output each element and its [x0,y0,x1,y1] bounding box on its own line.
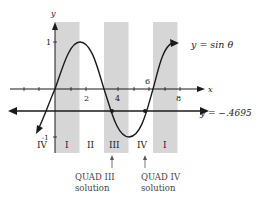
quad3-annotation-line1: QUAD III [75,172,115,182]
quad4-annotation-line2: solution [141,183,176,193]
quad4-annotation-line1: QUAD IV [141,172,181,182]
sine-arrow-left-icon [36,125,43,134]
x-tick-label-4: 4 [115,94,120,103]
y-tick-label-1: 1 [46,38,51,47]
line-label: y = −.4695 [199,108,252,118]
sine-label: y = sin θ [190,39,233,50]
x-axis-arrow-icon [197,86,205,92]
quadrant-label-iii: III [109,140,120,150]
band-quadrant-3 [104,22,129,153]
x-tick-label-2: 2 [84,94,89,103]
quadrant-label-i-right: I [163,140,167,150]
quad3-annotation-line2: solution [75,183,110,193]
quadrant-label-iv-left: IV [37,140,48,150]
solution-point-quad4 [143,109,147,113]
quad3-pointer-arrow-icon [110,155,114,160]
quadrant-label-ii: II [87,140,95,150]
quadrant-label-iv: IV [137,140,148,150]
quadrant-label-i: I [65,140,69,150]
solution-point-quad3 [110,109,114,113]
quad4-pointer-arrow-icon [143,155,147,160]
diagram: y x 1 -1 2 4 6 8 y = sin θ y = −.4695 IV… [0,0,262,202]
band-quadrant-1 [55,22,80,153]
y-axis-label: y [50,9,56,18]
x-tick-label-8: 8 [176,94,181,103]
x-axis-label: x [208,85,213,94]
x-tick-label-6: 6 [145,77,150,86]
line-left-arrow-icon [8,107,17,115]
